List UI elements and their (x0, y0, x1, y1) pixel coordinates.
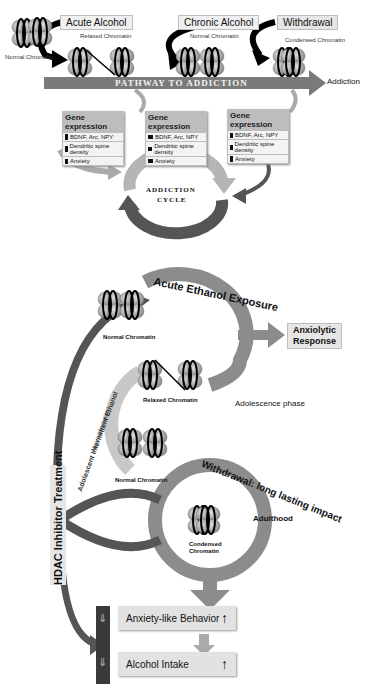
gene-row: Anxiety (63, 157, 123, 165)
down-arrow-icon: ⇓ (98, 612, 107, 625)
equal-indicator-icon (148, 135, 153, 139)
adolescence-phase-label: Adolescence phase (235, 399, 305, 408)
nucleosome-icon (143, 429, 167, 457)
gene-row-text: BDNF, Arc, NPY (155, 134, 198, 140)
addiction-label: Addiction (327, 77, 360, 86)
nucleosome-icon (110, 48, 134, 76)
stage-withdrawal: Withdrawal (277, 15, 338, 30)
nucleosome-icon (98, 291, 122, 319)
condensed-chromatin-line2: Chromatin (189, 548, 219, 554)
adulthood-label: Adulthood (253, 514, 293, 523)
gene-row-text: Dendritic spine density (154, 143, 204, 155)
gene-expression-title: Gene expression (146, 112, 206, 132)
gene-expression-title: Gene expression (63, 112, 123, 132)
gene-row-text: BDNF, Arc, NPY (70, 134, 113, 140)
gene-row: Dendritic spine density (146, 142, 206, 156)
gene-row: BDNF, Arc, NPY (228, 131, 288, 139)
gene-expression-box-withdrawal: Gene expression BDNF, Arc, NPY Dendritic… (227, 109, 289, 164)
nucleosome-icon (120, 291, 144, 319)
down-indicator-icon (230, 133, 233, 138)
gene-row-text: Anxiety (70, 158, 90, 164)
gene-row-text: BDNF, Arc, NPY (235, 132, 278, 138)
nucleosome-icon (176, 48, 200, 76)
gene-expression-box-chronic: Gene expression BDNF, Arc, NPY Dendritic… (145, 111, 207, 166)
outcome-alcohol-intake-box: Alcohol Intake ↑ (118, 652, 236, 676)
gene-row: BDNF, Arc, NPY (146, 133, 206, 141)
stage-acute-alcohol: Acute Alcohol (60, 15, 133, 30)
anxiolytic-line2: Response (293, 336, 336, 347)
condensed-chromatin-line1: Condensed (189, 541, 222, 547)
outcome-anxiety-box: Anxiety-like Behavior ↑ (118, 606, 236, 630)
outcome-alcohol-intake-label: Alcohol Intake (126, 659, 189, 670)
up-indicator-icon (65, 134, 68, 140)
initial-normal-chromatin-label: Normal Chromatin (5, 54, 54, 60)
nucleosome-icon (178, 361, 202, 389)
gene-row: Anxiety (228, 155, 288, 163)
nucleosome-icon (138, 361, 162, 389)
gene-expression-box-acute: Gene expression BDNF, Arc, NPY Dendritic… (62, 111, 124, 166)
pathway-to-addiction-label: PATHWAY TO ADDICTION (115, 78, 248, 88)
condensed-chromatin-label: Condensed Chromatin (285, 37, 345, 43)
hdac-inhibitor-treatment-label: HDAC Inhibitor Treatment (50, 465, 66, 585)
anxiolytic-response-box: Anxiolytic Response (287, 323, 342, 349)
gene-row-text: Anxiety (235, 156, 255, 162)
relaxed-chromatin-label: Relaxed Chromatin (80, 33, 131, 39)
gene-row-text: Dendritic spine density (70, 143, 121, 155)
normal-chromatin-label-1: Normal Chromatin (103, 334, 155, 340)
up-indicator-icon (230, 156, 233, 162)
normal-chromatin-label: Normal Chromatin (190, 33, 239, 39)
gene-expression-title: Gene expression (228, 110, 288, 130)
down-arrow-icon: ⇓ (98, 656, 107, 669)
nucleosome-icon (118, 429, 142, 457)
nucleosome-icon (196, 506, 220, 534)
outcome-anxiety-label: Anxiety-like Behavior (126, 613, 219, 624)
up-arrow-icon: ↑ (221, 656, 228, 672)
anxiolytic-line1: Anxiolytic (293, 325, 336, 336)
gene-row-text: Anxiety (155, 158, 175, 164)
up-arrow-icon: ↑ (221, 610, 228, 626)
nucleosome-icon (28, 18, 52, 46)
addiction-cycle-line1: ADDICTION (146, 186, 196, 194)
gene-row-text: Dendritic spine density (235, 141, 286, 153)
equal-indicator-icon (148, 159, 153, 163)
gene-row: Anxiety (146, 157, 206, 165)
nucleosome-icon (200, 48, 224, 76)
gene-row: BDNF, Arc, NPY (63, 133, 123, 141)
nucleosome-icon (281, 48, 305, 76)
addiction-cycle-line2: CYCLE (157, 196, 187, 204)
gene-row: Dendritic spine density (63, 142, 123, 156)
down-indicator-icon (65, 159, 68, 164)
gene-row: Dendritic spine density (228, 140, 288, 154)
up-indicator-icon (65, 146, 68, 152)
stage-chronic-alcohol: Chronic Alcohol (178, 15, 259, 30)
down-indicator-icon (230, 145, 233, 150)
equal-indicator-icon (148, 147, 152, 151)
relaxed-chromatin-label: Relaxed Chromatin (143, 397, 198, 403)
normal-chromatin-label-2: Normal Chromatin (115, 477, 167, 483)
